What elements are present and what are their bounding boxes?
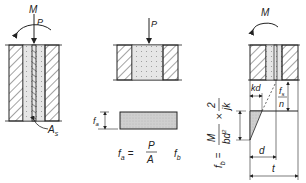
kd-label: kd xyxy=(251,83,262,93)
masonry-wythe-right xyxy=(282,45,298,80)
svg-text:fb=: fb= xyxy=(213,152,226,168)
stress-height-label: fa xyxy=(93,116,100,127)
moment-label: M xyxy=(29,4,38,15)
formula-numerator: P xyxy=(148,140,155,151)
grout-core xyxy=(23,45,45,121)
masonry-wythe-right xyxy=(45,45,59,121)
svg-text:bd2: bd2 xyxy=(221,129,232,144)
masonry-wythe-left xyxy=(250,45,266,80)
panel-3-flexural-stress: M kd fs n d t xyxy=(206,7,300,180)
formula-denominator: A xyxy=(146,154,154,165)
masonry-wythe-left xyxy=(117,45,132,80)
load-label: P xyxy=(37,17,43,27)
moment-label: M xyxy=(261,7,270,18)
bending-stress-label: fb xyxy=(174,148,181,161)
panel-1-wall-with-reinforcement: M P As xyxy=(5,4,62,137)
masonry-wythe-right xyxy=(163,45,178,80)
moment-arrow-icon xyxy=(253,23,278,30)
masonry-wythe-left xyxy=(9,45,23,121)
flexural-stress-formula: fb= M bd2 × 2 jk xyxy=(206,98,232,168)
axial-stress-formula: fa= xyxy=(118,148,134,161)
t-label: t xyxy=(272,163,276,174)
svg-text:jk: jk xyxy=(221,102,232,112)
masonry-stress-diagram: M P As P fa fa= P xyxy=(0,0,306,183)
triangular-stress-block xyxy=(250,111,262,140)
d-label: d xyxy=(259,145,265,156)
n-label: n xyxy=(279,99,284,109)
fs-label: fs xyxy=(279,86,285,97)
panel-2-axial-stress: P fa fa= P A fb xyxy=(93,18,182,165)
uniform-stress-block xyxy=(120,112,177,129)
svg-text:2: 2 xyxy=(206,102,217,109)
svg-text:M: M xyxy=(206,133,217,142)
steel-area-label: As xyxy=(47,124,59,137)
svg-text:×: × xyxy=(214,112,224,120)
grout-core xyxy=(132,45,163,80)
load-label: P xyxy=(151,19,157,29)
